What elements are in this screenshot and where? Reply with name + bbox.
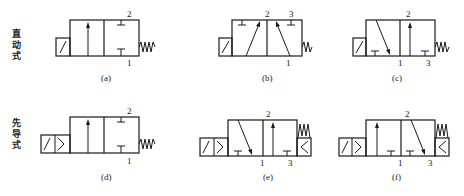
svg-text:(f): (f) bbox=[392, 172, 401, 182]
spring-icon bbox=[302, 42, 312, 52]
flow-arrow-icon bbox=[256, 21, 260, 27]
svg-text:2: 2 bbox=[406, 9, 411, 19]
spring-icon bbox=[436, 124, 448, 138]
svg-text:3: 3 bbox=[288, 158, 293, 168]
flow-arrow-icon bbox=[86, 22, 90, 28]
flow-arrow-icon bbox=[386, 49, 390, 55]
svg-text:2: 2 bbox=[127, 106, 132, 116]
svg-text:(d): (d) bbox=[101, 172, 112, 182]
svg-text:导: 导 bbox=[12, 129, 21, 139]
spring-icon bbox=[139, 42, 155, 52]
flow-arrow-icon bbox=[271, 122, 275, 128]
svg-text:(b): (b) bbox=[262, 73, 273, 83]
flow-arrow-icon bbox=[408, 22, 412, 28]
flow-arrow-icon bbox=[421, 149, 425, 155]
svg-text:2: 2 bbox=[266, 109, 271, 119]
svg-text:2: 2 bbox=[127, 9, 132, 19]
flow-arrow-icon bbox=[276, 21, 280, 27]
svg-text:直: 直 bbox=[12, 28, 21, 39]
svg-text:3: 3 bbox=[428, 158, 433, 168]
svg-text:1: 1 bbox=[260, 158, 265, 168]
svg-text:1: 1 bbox=[286, 58, 291, 68]
svg-text:(e): (e) bbox=[263, 172, 273, 182]
svg-text:3: 3 bbox=[426, 58, 431, 68]
valve-b: 2 3 1 (b) bbox=[219, 9, 312, 83]
pilot-triangle-icon bbox=[58, 138, 64, 150]
valve-e: 2 1 3 (e) bbox=[200, 109, 311, 182]
svg-text:1: 1 bbox=[127, 156, 132, 166]
svg-text:(c): (c) bbox=[392, 73, 402, 83]
svg-text:动: 动 bbox=[12, 40, 21, 50]
svg-text:1: 1 bbox=[398, 158, 403, 168]
flow-arrow-icon bbox=[375, 122, 379, 128]
solenoid-valve-diagram: 直 动 式 先 导 式 2 1 (a) bbox=[0, 0, 464, 196]
spring-icon bbox=[435, 42, 449, 52]
svg-text:先: 先 bbox=[12, 117, 21, 128]
svg-text:2: 2 bbox=[265, 9, 270, 19]
row-label-direct-acting: 直 动 式 bbox=[12, 28, 21, 61]
spring-icon bbox=[298, 124, 310, 138]
svg-text:(a): (a) bbox=[101, 73, 111, 83]
flow-arrow-icon bbox=[86, 119, 90, 125]
spring-icon bbox=[139, 139, 155, 149]
valve-c: 2 1 3 (c) bbox=[353, 9, 449, 83]
pilot-return-icon bbox=[297, 138, 311, 156]
svg-text:式: 式 bbox=[12, 139, 21, 150]
svg-text:2: 2 bbox=[405, 109, 410, 119]
valve-d: 2 1 (d) bbox=[41, 106, 155, 182]
valve-f: 2 1 3 (f) bbox=[339, 109, 449, 182]
svg-text:3: 3 bbox=[289, 9, 294, 19]
svg-text:1: 1 bbox=[127, 58, 132, 68]
valve-a: 2 1 (a) bbox=[56, 9, 155, 83]
pilot-triangle-icon bbox=[355, 141, 361, 153]
pilot-triangle-icon bbox=[217, 141, 223, 153]
svg-text:1: 1 bbox=[398, 58, 403, 68]
flow-arrow-icon bbox=[248, 149, 252, 155]
svg-text:式: 式 bbox=[12, 50, 21, 61]
row-label-pilot-operated: 先 导 式 bbox=[12, 117, 21, 150]
pilot-return-icon bbox=[435, 138, 449, 156]
